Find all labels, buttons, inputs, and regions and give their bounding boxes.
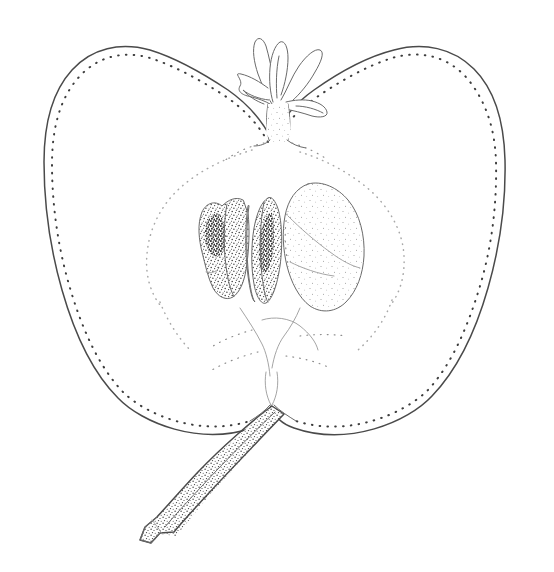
botanical-illustration-canvas: Botanical line illustration of a pome fr… bbox=[0, 0, 554, 572]
calyx-tube-stipple bbox=[266, 104, 292, 144]
illustration-svg bbox=[0, 0, 554, 572]
